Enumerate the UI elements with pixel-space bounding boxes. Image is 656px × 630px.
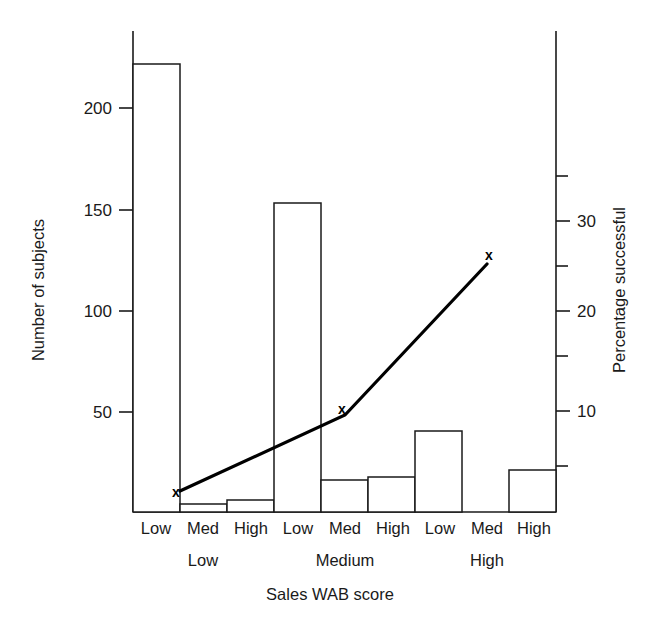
x-label-1: Med bbox=[187, 519, 219, 537]
left-tick-label: 50 bbox=[93, 403, 112, 422]
left-axis-tick-150: 150 bbox=[84, 201, 133, 220]
bar-medium-med bbox=[321, 480, 368, 512]
right-tick-label: 10 bbox=[577, 402, 596, 421]
x-group-label-medium: Medium bbox=[316, 551, 375, 569]
x-label-3: Low bbox=[283, 519, 313, 537]
right-axis: 30 20 10 Percentage successful bbox=[556, 31, 628, 512]
bar-group bbox=[133, 64, 556, 512]
trend-marker-medium: x bbox=[338, 401, 346, 417]
left-tick-label: 200 bbox=[84, 99, 112, 118]
bar-low-high bbox=[227, 500, 274, 512]
x-axis-title: Sales WAB score bbox=[266, 585, 394, 603]
right-axis-tick-30: 30 bbox=[556, 212, 596, 231]
chart-canvas: 200 150 100 50 Number of subjects bbox=[0, 0, 656, 630]
trend-marker-high: x bbox=[485, 247, 493, 263]
left-axis: 200 150 100 50 Number of subjects bbox=[29, 31, 133, 512]
x-label-4: Med bbox=[329, 519, 361, 537]
trend-marker-low: x bbox=[172, 484, 180, 500]
x-group-label-low: Low bbox=[188, 551, 218, 569]
left-axis-tick-100: 100 bbox=[84, 302, 133, 321]
left-axis-tick-50: 50 bbox=[93, 403, 133, 422]
right-tick-label: 20 bbox=[577, 302, 596, 321]
chart-figure: 200 150 100 50 Number of subjects bbox=[0, 0, 656, 630]
left-axis-title: Number of subjects bbox=[29, 219, 47, 361]
bar-medium-high bbox=[368, 477, 415, 512]
left-axis-tick-200: 200 bbox=[84, 99, 133, 118]
x-label-8: High bbox=[517, 519, 551, 537]
x-label-0: Low bbox=[141, 519, 171, 537]
x-group-labels: Low Medium High bbox=[188, 551, 504, 569]
x-group-label-high: High bbox=[470, 551, 504, 569]
right-axis-title: Percentage successful bbox=[610, 207, 628, 373]
right-axis-tick-10: 10 bbox=[556, 402, 596, 421]
right-tick-label: 30 bbox=[577, 212, 596, 231]
x-label-2: High bbox=[234, 519, 268, 537]
x-label-6: Low bbox=[425, 519, 455, 537]
x-label-5: High bbox=[376, 519, 410, 537]
bar-high-high bbox=[509, 470, 556, 512]
bar-high-low bbox=[415, 431, 462, 512]
x-category-labels: Low Med High Low Med High Low Med High bbox=[141, 519, 551, 537]
bar-medium-low bbox=[274, 203, 321, 512]
left-tick-label: 150 bbox=[84, 201, 112, 220]
x-label-7: Med bbox=[471, 519, 503, 537]
left-tick-label: 100 bbox=[84, 302, 112, 321]
right-axis-tick-20: 20 bbox=[556, 302, 596, 321]
bar-low-low bbox=[133, 64, 180, 512]
bar-low-med bbox=[180, 504, 227, 512]
